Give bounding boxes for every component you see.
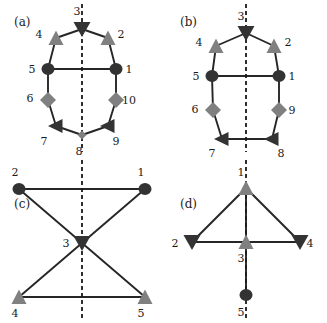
panel-a-node-9-triangle-left-marker[interactable]: [100, 119, 115, 133]
panel-a-node-label-1: 1: [126, 63, 133, 76]
panel-d-node-label-5: 5: [238, 306, 245, 319]
panel-b-node-label-9: 9: [289, 104, 296, 117]
panel-b-node-label-8: 8: [278, 147, 285, 160]
panel-c-node-label-3: 3: [63, 237, 70, 250]
panel-c-node-1-circle-marker[interactable]: [139, 183, 152, 195]
panel-a-node-label-2: 2: [118, 28, 125, 41]
edge-1-4: [246, 188, 300, 242]
panel-c-node-label-5: 5: [138, 307, 145, 320]
panel-d-node-label-2: 2: [172, 237, 179, 250]
panel-a-node-2-triangle-up-marker[interactable]: [101, 31, 116, 46]
panel-a-node-1-circle-marker[interactable]: [110, 63, 123, 75]
panel-a-node-label-10: 10: [122, 94, 136, 107]
panel-b-node-3-triangle-down-marker[interactable]: [238, 26, 255, 41]
panel-b-node-label-7: 7: [209, 147, 216, 160]
figure-panels-abcd: 12345678910(a)123456789(b)12345(c)12345(…: [0, 0, 327, 323]
panel-b-node-5-circle-marker[interactable]: [206, 70, 219, 82]
panel-a-node-6-diamond-marker[interactable]: [40, 92, 56, 108]
panel-b: 123456789(b): [180, 4, 296, 160]
panel-b-node-label-5: 5: [193, 70, 200, 83]
panel-a-node-label-9: 9: [113, 135, 120, 148]
panel-b-node-8-triangle-left-marker[interactable]: [264, 132, 279, 146]
edge-3-5: [82, 243, 145, 297]
panel-b-node-label-6: 6: [192, 103, 199, 116]
panel-d-node-1-triangle-up-marker[interactable]: [239, 181, 254, 196]
edge-1-3: [82, 189, 145, 243]
panel-b-caption: (b): [180, 15, 197, 29]
edge-2-3: [246, 33, 274, 46]
panel-c-node-2-circle-marker[interactable]: [13, 183, 26, 195]
panel-b-node-6-diamond-marker[interactable]: [205, 102, 221, 118]
panel-b-node-label-4: 4: [196, 36, 203, 49]
panel-a-node-label-5: 5: [29, 63, 36, 76]
panel-a-caption: (a): [14, 15, 31, 29]
panel-a-node-label-7: 7: [41, 135, 48, 148]
panel-d-node-label-3: 3: [238, 252, 245, 265]
panel-b-node-4-triangle-up-marker[interactable]: [209, 39, 224, 54]
panel-d-node-label-4: 4: [307, 237, 314, 250]
panel-a-node-5-circle-marker[interactable]: [42, 63, 55, 75]
panel-d-node-label-1: 1: [238, 166, 245, 179]
panel-c: 12345(c): [12, 160, 153, 320]
panel-a: 12345678910(a): [14, 4, 136, 158]
panel-a-node-label-3: 3: [74, 5, 81, 18]
panel-c-node-label-2: 2: [12, 166, 19, 179]
panel-a-node-8-diamond-small-marker[interactable]: [78, 131, 87, 140]
panel-b-node-2-triangle-up-marker[interactable]: [267, 39, 282, 54]
panel-d: 12345(d): [172, 160, 314, 319]
panel-c-node-label-1: 1: [138, 166, 145, 179]
panel-b-node-1-circle-marker[interactable]: [273, 70, 286, 82]
panel-c-caption: (c): [14, 197, 30, 211]
panel-b-node-label-1: 1: [289, 70, 296, 83]
edge-3-4: [56, 29, 82, 38]
panel-b-node-label-2: 2: [285, 36, 292, 49]
panel-a-node-4-triangle-up-marker[interactable]: [49, 31, 64, 46]
edge-2-3: [82, 29, 108, 38]
panel-c-node-label-4: 4: [12, 307, 19, 320]
edge-3-4: [216, 33, 246, 46]
edge-3-4: [19, 243, 82, 297]
panel-a-node-3-triangle-down-marker[interactable]: [74, 22, 91, 37]
panel-d-caption: (d): [180, 197, 197, 211]
edge-1-2: [192, 188, 246, 242]
panel-d-node-5-circle-marker[interactable]: [240, 289, 253, 301]
panel-a-node-label-4: 4: [36, 28, 43, 41]
panel-a-node-label-8: 8: [76, 145, 83, 158]
vibration-mode-diagram: 12345678910(a)123456789(b)12345(c)12345(…: [0, 0, 327, 323]
panel-b-node-label-3: 3: [238, 10, 245, 23]
panel-a-node-label-6: 6: [27, 92, 34, 105]
panel-b-node-9-diamond-marker[interactable]: [271, 102, 287, 118]
